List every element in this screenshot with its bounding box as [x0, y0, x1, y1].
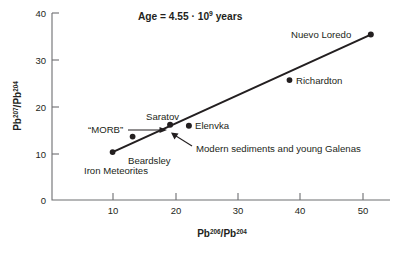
- x-tick-label-50: 50: [358, 205, 369, 216]
- annotation-modern-sediments-arrow: [171, 133, 192, 147]
- label-richardton: Richardton: [296, 75, 342, 86]
- origin-label: 0: [41, 195, 46, 206]
- x-axis-title-base1: Pb: [197, 228, 210, 239]
- chart-canvas: Age = 4.55 · 109 years 40 30 20 10 0 10 …: [0, 0, 400, 254]
- data-point-iron-meteorites: [110, 149, 116, 155]
- chart-title: Age = 4.55 · 109 years: [138, 10, 243, 22]
- x-axis-title-sup2: 204: [236, 228, 247, 235]
- data-point-richardton: [287, 77, 293, 83]
- data-point-saratov: [167, 122, 173, 128]
- isochron-line: [113, 35, 371, 153]
- y-axis-title-base2: Pb: [12, 92, 23, 105]
- x-axis-title-base2: Pb: [223, 228, 236, 239]
- x-axis-title-sup1: 206: [210, 228, 221, 235]
- y-tick-label-40: 40: [35, 8, 46, 19]
- data-point-beardsley: [130, 134, 136, 140]
- y-axis-title-base1: Pb: [12, 118, 23, 131]
- x-tick-label-40: 40: [295, 205, 306, 216]
- label-beardsley: Beardsley: [128, 155, 171, 166]
- chart-title-suffix: years: [213, 11, 243, 22]
- annotation-morb-arrow: [128, 127, 167, 133]
- data-point-nuevo-loredo: [368, 32, 374, 38]
- y-tick-label-20: 20: [35, 102, 46, 113]
- label-iron-meteorites: Iron Meteorites: [84, 165, 148, 176]
- data-point-elenvka: [186, 123, 192, 129]
- x-axis-title: Pb206/Pb204: [197, 228, 247, 239]
- annotation-modern-sediments-label: Modern sediments and young Galenas: [196, 143, 361, 154]
- label-saratov: Saratov: [146, 111, 179, 122]
- y-axis-ticks: [52, 13, 59, 154]
- x-tick-label-20: 20: [171, 205, 182, 216]
- x-axis-ticks: [113, 193, 363, 200]
- label-elenvka: Elenvka: [195, 120, 230, 131]
- annotation-morb-label: “MORB”: [88, 124, 123, 135]
- chart-title-prefix: Age = 4.55 · 10: [138, 11, 209, 22]
- y-tick-label-10: 10: [35, 149, 46, 160]
- y-axis-title: Pb207/Pb204: [12, 81, 23, 131]
- y-axis-title-sup1: 207: [12, 107, 19, 118]
- x-tick-label-30: 30: [233, 205, 244, 216]
- label-nuevo-loredo: Nuevo Loredo: [291, 29, 351, 40]
- y-tick-label-30: 30: [35, 55, 46, 66]
- x-tick-label-10: 10: [108, 205, 119, 216]
- isochron-chart-figure: Age = 4.55 · 109 years 40 30 20 10 0 10 …: [0, 0, 400, 254]
- y-axis-title-sup2: 204: [12, 81, 19, 92]
